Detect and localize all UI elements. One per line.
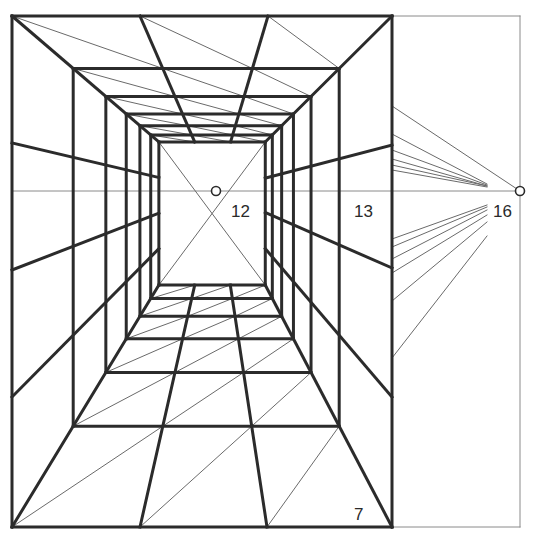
label-vanishing-point: 12	[231, 202, 250, 221]
vanishing-point-marker	[212, 187, 221, 196]
label-wall: 13	[354, 202, 373, 221]
distance-point-marker	[516, 187, 525, 196]
label-floor: 7	[354, 505, 363, 524]
canvas-background	[0, 0, 535, 533]
perspective-diagram: 12 13 16 7	[0, 0, 535, 533]
label-distance-point: 16	[493, 202, 512, 221]
